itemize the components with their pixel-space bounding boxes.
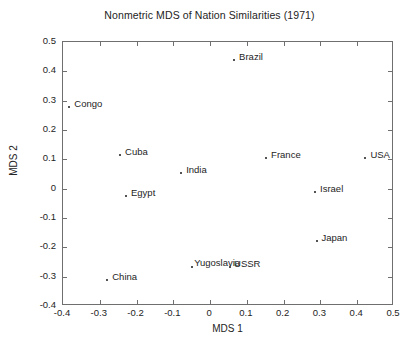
data-point-label: Japan [322, 232, 348, 243]
x-axis-tick [173, 300, 174, 304]
y-axis-tick [388, 218, 392, 219]
x-axis-tick-label: 0 [189, 307, 229, 318]
page-title: Nonmetric MDS of Nation Similarities (19… [0, 9, 419, 21]
y-axis-tick-label: -0.1 [20, 211, 56, 222]
y-axis-tick [63, 71, 67, 72]
y-axis-tick [63, 189, 67, 190]
y-axis-tick [388, 71, 392, 72]
y-axis-tick [63, 277, 67, 278]
data-point-label: China [112, 271, 137, 282]
x-axis-tick [284, 300, 285, 304]
x-axis-tick [137, 300, 138, 304]
y-axis-tick-label: 0.1 [20, 152, 56, 163]
x-axis-tick [320, 300, 321, 304]
data-point-label: USA [370, 149, 390, 160]
y-axis-tick [388, 277, 392, 278]
x-axis-tick-label: -0.2 [116, 307, 156, 318]
x-axis-tick-label: 0.4 [336, 307, 376, 318]
x-axis-tick [100, 300, 101, 304]
y-axis-tick-label: 0 [20, 182, 56, 193]
x-axis-tick [320, 42, 321, 46]
y-axis-tick [63, 159, 67, 160]
x-axis-tick [357, 300, 358, 304]
data-point-label: Egypt [131, 187, 155, 198]
x-axis-tick-label: -0.1 [152, 307, 192, 318]
y-axis-tick-label: 0.3 [20, 94, 56, 105]
y-axis-tick [63, 247, 67, 248]
x-axis-tick [100, 42, 101, 46]
data-point-label: India [186, 164, 207, 175]
y-axis-label: MDS 2 [8, 131, 19, 191]
y-axis-tick [63, 101, 67, 102]
data-point-label: Cuba [125, 146, 148, 157]
data-point [119, 154, 121, 156]
y-axis-tick-label: -0.2 [20, 240, 56, 251]
data-point-label: Congo [74, 98, 102, 109]
y-axis-tick-label: -0.3 [20, 270, 56, 281]
y-axis-tick [388, 189, 392, 190]
x-axis-tick [210, 42, 211, 46]
x-axis-tick [247, 42, 248, 46]
x-axis-tick-label: 0.3 [299, 307, 339, 318]
x-axis-tick [173, 42, 174, 46]
y-axis-tick-label: 0.2 [20, 123, 56, 134]
data-point-label: USSR [234, 258, 260, 269]
data-point-label: Brazil [239, 51, 263, 62]
x-axis-tick [247, 300, 248, 304]
y-axis-tick [388, 247, 392, 248]
x-axis-tick [357, 42, 358, 46]
y-axis-tick [388, 130, 392, 131]
y-axis-tick [63, 130, 67, 131]
x-axis-tick [137, 42, 138, 46]
y-axis-tick [388, 101, 392, 102]
data-point-label: France [271, 149, 301, 160]
y-axis-tick [63, 218, 67, 219]
x-axis-tick-label: 0.5 [373, 307, 413, 318]
mds-scatter-figure: Nonmetric MDS of Nation Similarities (19… [0, 0, 419, 355]
y-axis-tick-label: 0.4 [20, 64, 56, 75]
x-axis-tick-label: 0.2 [263, 307, 303, 318]
x-axis-tick-label: -0.3 [79, 307, 119, 318]
x-axis-tick-label: 0.1 [226, 307, 266, 318]
y-axis-tick-label: 0.5 [20, 35, 56, 46]
x-axis-label: MDS 1 [62, 323, 393, 334]
y-axis-tick-label: -0.4 [20, 299, 56, 310]
data-point-label: Israel [320, 183, 343, 194]
x-axis-tick [210, 300, 211, 304]
x-axis-tick [284, 42, 285, 46]
